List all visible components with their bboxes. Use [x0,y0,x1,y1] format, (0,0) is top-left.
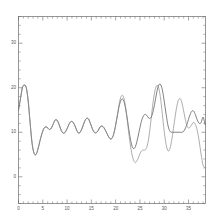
y-tick-label: 10 [11,129,17,134]
x-tick-label: 20 [113,206,119,211]
line-chart: 051015202530350102030 [0,0,217,224]
x-tick-label: 25 [137,206,143,211]
y-tick-label: 20 [11,85,17,90]
chart-background [0,0,217,224]
y-tick-label: 30 [11,40,17,45]
x-tick-label: 10 [65,206,71,211]
chart-figure: 051015202530350102030 [0,0,217,224]
x-tick-label: 35 [186,206,192,211]
x-tick-label: 30 [162,206,168,211]
x-tick-label: 15 [89,206,95,211]
